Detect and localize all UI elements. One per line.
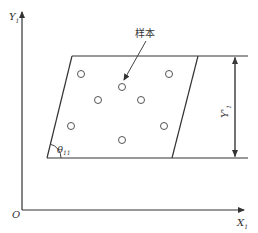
sample-point: [166, 71, 173, 78]
angle-label: θ11: [57, 144, 71, 156]
right-side: [172, 56, 198, 158]
sample-point: [138, 97, 145, 104]
sample-point: [119, 137, 126, 144]
sample-point: [161, 123, 168, 130]
parallelogram-diagram: Y1 X1 O θ11 Y'1 样本: [0, 0, 258, 233]
height-label: Y'1: [219, 105, 232, 118]
annotation-arrow: [124, 41, 146, 80]
sample-point: [95, 97, 102, 104]
left-side: [47, 56, 72, 158]
sample-point: [68, 123, 75, 130]
sample-point: [78, 71, 85, 78]
sample-point: [119, 84, 126, 91]
y-axis-label: Y1: [9, 11, 19, 24]
sample-annotation-label: 样本: [135, 27, 155, 39]
x-axis-label: X1: [236, 217, 248, 230]
origin-label: O: [12, 209, 20, 220]
